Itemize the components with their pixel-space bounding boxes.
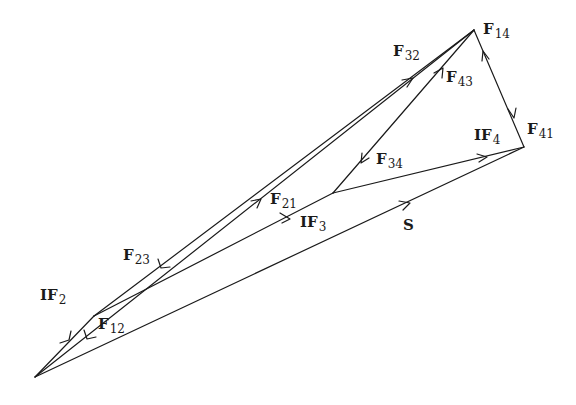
label-S: S: [403, 218, 415, 236]
label-IF4: IF4: [474, 128, 500, 146]
arrow-F34-icon: [361, 153, 369, 163]
arrow-F12-icon: [84, 330, 96, 339]
label-F12: F12: [98, 317, 125, 335]
label-F32: F32: [393, 44, 420, 62]
label-F41: F41: [527, 122, 554, 140]
arrow-F21-icon: [251, 199, 261, 208]
label-F23: F23: [123, 248, 150, 266]
label-IF3: IF3: [300, 215, 326, 233]
vector-IF2: [35, 316, 94, 377]
label-IF2: IF2: [40, 288, 66, 306]
label-F43: F43: [446, 70, 473, 88]
label-F34: F34: [376, 152, 403, 170]
arrow-F43-icon: [434, 68, 443, 78]
force-polygon-diagram: F14 F32 F43 IF4 F41 F34 F21 IF3 S F23 IF…: [0, 0, 576, 405]
label-F14: F14: [483, 22, 510, 40]
vector-S: [35, 147, 524, 377]
label-F21: F21: [270, 192, 297, 210]
